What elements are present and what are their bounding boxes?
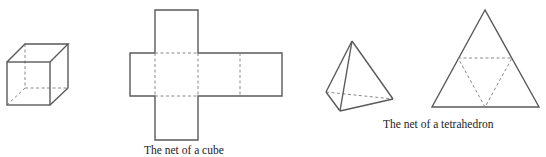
diagram-canvas <box>0 0 546 157</box>
cube-net-caption: The net of a cube <box>144 144 224 156</box>
tetrahedron-net-figure <box>432 10 539 107</box>
cube-figure <box>7 44 68 105</box>
cube-hidden-edge <box>7 88 25 105</box>
tetrahedron-edge <box>340 99 393 111</box>
tetrahedron-hidden-edge <box>326 92 393 99</box>
cube-top-face <box>7 44 68 62</box>
tetrahedron-net-caption: The net of a tetrahedron <box>383 118 493 130</box>
tetrahedron-edge <box>326 92 340 111</box>
cube-net-outline <box>130 10 282 140</box>
tetrahedron-net-fold-lines <box>458 58 512 107</box>
tetrahedron-figure <box>326 41 393 111</box>
tetrahedron-edge <box>352 41 393 99</box>
cube-net-figure <box>130 10 282 140</box>
cube-front-face <box>7 62 50 105</box>
